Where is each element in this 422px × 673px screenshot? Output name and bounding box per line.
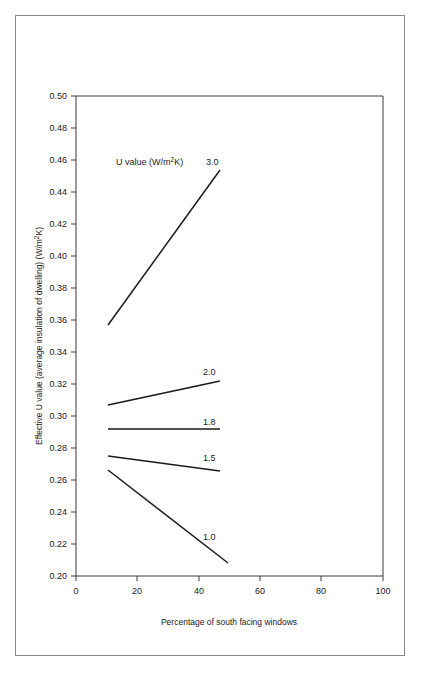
x-tick-label: 0	[73, 586, 78, 596]
y-tick-label: 0.24	[49, 507, 67, 517]
series-labels: 3.0 2.0 1.8 1.5 1.0	[203, 157, 219, 542]
y-tick-label: 0.34	[49, 347, 67, 357]
y-axis-title-tail: K)	[34, 227, 44, 236]
x-tick-label: 40	[194, 586, 204, 596]
x-tick-label: 60	[255, 586, 265, 596]
y-tick-label: 0.50	[49, 91, 67, 101]
y-tick-label: 0.26	[49, 475, 67, 485]
series-line-2-0	[108, 381, 220, 405]
y-tick-label: 0.30	[49, 411, 67, 421]
x-tick-label: 80	[316, 586, 326, 596]
y-tick-label: 0.36	[49, 315, 67, 325]
y-tick-label: 0.46	[49, 155, 67, 165]
y-axis-ticks	[71, 96, 76, 576]
y-tick-label: 0.40	[49, 251, 67, 261]
series-label-3-0: 3.0	[206, 157, 219, 167]
x-axis-ticks	[76, 576, 383, 581]
y-axis-title: Effective U value (average insulation of…	[33, 227, 44, 445]
y-tick-label: 0.44	[49, 187, 67, 197]
y-tick-label: 0.42	[49, 219, 67, 229]
series-label-1-5: 1.5	[203, 453, 216, 463]
y-tick-label: 0.22	[49, 539, 67, 549]
series-label-1-8: 1.8	[203, 417, 216, 427]
x-axis-tick-labels: 0 20 40 60 80 100	[73, 586, 390, 596]
legend-title: U value (W/m2K)	[116, 156, 183, 167]
y-axis-title-main: Effective U value (average insulation of…	[34, 239, 44, 445]
x-tick-label: 20	[132, 586, 142, 596]
series-label-2-0: 2.0	[203, 367, 216, 377]
y-tick-label: 0.48	[49, 123, 67, 133]
x-axis-title: Percentage of south facing windows	[161, 617, 297, 627]
chart-page: 0.50 0.48 0.46 0.44 0.42 0.40 0.38 0.36 …	[0, 0, 422, 673]
series-label-1-0: 1.0	[203, 532, 216, 542]
y-axis-tick-labels: 0.50 0.48 0.46 0.44 0.42 0.40 0.38 0.36 …	[49, 91, 67, 581]
series-line-3-0	[108, 170, 220, 325]
y-tick-label: 0.32	[49, 379, 67, 389]
x-tick-label: 100	[375, 586, 390, 596]
series-line-1-0	[108, 470, 228, 563]
y-tick-label: 0.28	[49, 443, 67, 453]
y-tick-label: 0.38	[49, 283, 67, 293]
legend-title-main: U value (W/m	[116, 157, 171, 167]
y-tick-label: 0.20	[49, 571, 67, 581]
legend-title-tail: K)	[174, 157, 183, 167]
line-chart: 0.50 0.48 0.46 0.44 0.42 0.40 0.38 0.36 …	[0, 0, 422, 673]
